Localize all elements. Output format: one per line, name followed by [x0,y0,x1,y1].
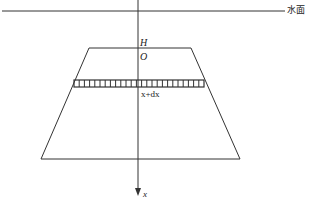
trapezoid-plate [41,48,240,159]
horizontal-strip [74,80,204,87]
depth-label-h: H [140,38,147,48]
water-surface-label: 水面 [287,6,305,15]
strip-depth-label: x+dx [141,90,160,99]
x-axis-label: x [143,190,147,199]
x-axis-arrowhead-icon [135,188,141,196]
origin-label: O [140,52,147,62]
trapezoid-plate-diagram [0,0,310,219]
